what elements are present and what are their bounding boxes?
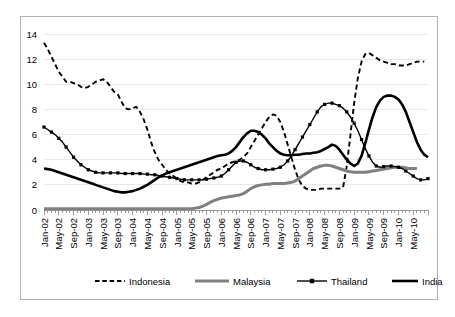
- series-line-indonesia: [44, 43, 424, 190]
- y-axis-tick-label: 4: [32, 154, 37, 165]
- series-marker-thailand: [138, 172, 141, 175]
- series-marker-thailand: [353, 122, 356, 125]
- x-axis-tick-label: Sep-06: [245, 218, 256, 249]
- legend-label-malaysia: Malaysia: [233, 276, 271, 287]
- x-axis-tick-label: May-07: [275, 218, 286, 250]
- x-axis-tick-label: May-10: [408, 218, 419, 250]
- chart-container: 02468101214Jan-02May-02Sep-02Jan-03May-0…: [0, 0, 455, 317]
- series-marker-thailand: [50, 130, 53, 133]
- series-marker-thailand: [227, 168, 230, 171]
- series-marker-thailand: [360, 138, 363, 141]
- series-marker-thailand: [389, 164, 392, 167]
- x-axis-tick-label: May-04: [142, 218, 153, 250]
- series-marker-thailand: [175, 177, 178, 180]
- legend-marker-thailand: [310, 279, 314, 283]
- series-line-thailand: [44, 103, 428, 180]
- legend-label-india: India: [422, 276, 443, 287]
- x-axis-tick-label: Jan-03: [83, 218, 94, 247]
- x-axis-tick-label: Sep-09: [378, 218, 389, 249]
- series-marker-thailand: [220, 174, 223, 177]
- y-axis-tick-label: 12: [26, 54, 37, 65]
- x-axis-tick-label: Sep-02: [68, 218, 79, 249]
- line-chart: 02468101214Jan-02May-02Sep-02Jan-03May-0…: [0, 0, 455, 317]
- series-line-india: [44, 96, 428, 193]
- x-axis-tick-label: May-08: [319, 218, 330, 250]
- series-marker-thailand: [153, 173, 156, 176]
- x-axis-tick-label: May-05: [186, 218, 197, 250]
- y-axis-tick-label: 6: [32, 129, 37, 140]
- x-axis-tick-label: Sep-05: [201, 218, 212, 249]
- y-axis-tick-label: 0: [32, 205, 37, 216]
- series-marker-thailand: [338, 104, 341, 107]
- series-marker-thailand: [234, 161, 237, 164]
- series-marker-thailand: [264, 168, 267, 171]
- x-axis-tick-label: Jan-02: [39, 218, 50, 247]
- series-marker-thailand: [65, 146, 68, 149]
- x-axis-tick-label: Jan-05: [172, 218, 183, 247]
- x-axis-tick-label: Jan-10: [393, 218, 404, 247]
- series-marker-thailand: [367, 154, 370, 157]
- series-marker-thailand: [205, 178, 208, 181]
- series-marker-thailand: [249, 163, 252, 166]
- series-marker-thailand: [183, 178, 186, 181]
- series-marker-thailand: [404, 169, 407, 172]
- series-marker-thailand: [79, 163, 82, 166]
- x-axis-tick-label: Sep-04: [157, 218, 168, 249]
- series-marker-thailand: [146, 173, 149, 176]
- series-marker-thailand: [286, 159, 289, 162]
- series-marker-thailand: [345, 110, 348, 113]
- series-marker-thailand: [323, 103, 326, 106]
- series-marker-thailand: [426, 177, 429, 180]
- series-marker-thailand: [301, 135, 304, 138]
- x-axis-tick-label: May-03: [98, 218, 109, 250]
- series-marker-thailand: [271, 168, 274, 171]
- x-axis-tick-label: Jan-04: [127, 218, 138, 247]
- series-marker-thailand: [212, 176, 215, 179]
- x-axis-tick-label: Jan-07: [260, 218, 271, 247]
- series-marker-thailand: [330, 102, 333, 105]
- series-marker-thailand: [124, 172, 127, 175]
- legend-label-indonesia: Indonesia: [129, 276, 171, 287]
- y-axis-tick-label: 2: [32, 179, 37, 190]
- series-marker-thailand: [87, 168, 90, 171]
- x-axis-tick-label: Sep-03: [112, 218, 123, 249]
- series-marker-thailand: [109, 171, 112, 174]
- series-marker-thailand: [168, 176, 171, 179]
- x-axis-tick-label: Sep-07: [290, 218, 301, 249]
- x-axis-tick-label: Jan-06: [216, 218, 227, 247]
- series-marker-thailand: [293, 148, 296, 151]
- y-axis-tick-label: 10: [26, 79, 37, 90]
- series-marker-thailand: [316, 110, 319, 113]
- series-marker-thailand: [94, 171, 97, 174]
- series-marker-thailand: [57, 137, 60, 140]
- series-marker-thailand: [131, 172, 134, 175]
- series-marker-thailand: [42, 125, 45, 128]
- x-axis-tick-label: May-09: [364, 218, 375, 250]
- legend-item-indonesia[interactable]: Indonesia: [95, 276, 171, 287]
- series-marker-thailand: [257, 167, 260, 170]
- y-axis-tick-label: 8: [32, 104, 37, 115]
- series-marker-thailand: [412, 174, 415, 177]
- x-axis-tick-label: Jan-09: [349, 218, 360, 247]
- series-marker-thailand: [419, 178, 422, 181]
- x-axis-tick-label: May-06: [231, 218, 242, 250]
- series-marker-thailand: [308, 123, 311, 126]
- x-axis-tick-label: Jan-08: [304, 218, 315, 247]
- series-marker-thailand: [375, 164, 378, 167]
- series-thailand: [42, 102, 429, 182]
- series-marker-thailand: [190, 178, 193, 181]
- legend-item-thailand[interactable]: Thailand: [297, 276, 367, 287]
- x-axis-tick-label: May-02: [53, 218, 64, 250]
- series-indonesia: [44, 43, 424, 190]
- series-marker-thailand: [382, 165, 385, 168]
- series-marker-thailand: [279, 166, 282, 169]
- x-axis-tick-label: Sep-08: [334, 218, 345, 249]
- series-marker-thailand: [116, 171, 119, 174]
- legend-item-malaysia[interactable]: Malaysia: [195, 276, 271, 287]
- series-marker-thailand: [72, 156, 75, 159]
- legend-label-thailand: Thailand: [331, 276, 367, 287]
- series-marker-thailand: [101, 171, 104, 174]
- y-axis-tick-label: 14: [26, 29, 37, 40]
- legend-item-india[interactable]: India: [392, 276, 443, 287]
- series-marker-thailand: [242, 159, 245, 162]
